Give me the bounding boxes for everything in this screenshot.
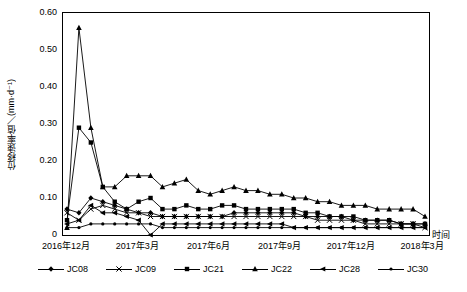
data-point-marker <box>232 226 235 229</box>
data-point-marker <box>171 221 176 226</box>
data-point-marker <box>255 221 260 226</box>
data-point-marker <box>303 211 307 215</box>
data-point-marker <box>280 226 283 229</box>
data-point-marker <box>173 226 176 229</box>
data-point-marker <box>339 214 343 218</box>
data-point-marker <box>292 207 296 211</box>
y-tick-label: 0 <box>25 229 57 239</box>
data-point-marker <box>219 221 224 226</box>
legend-label: JC21 <box>203 264 224 274</box>
data-point-marker <box>161 226 164 229</box>
data-point-marker <box>423 226 426 229</box>
data-point-marker <box>184 177 190 182</box>
data-point-marker <box>148 196 152 200</box>
data-point-marker <box>195 221 200 226</box>
data-point-marker <box>185 267 189 271</box>
series-layer <box>63 13 429 235</box>
data-point-marker <box>116 266 121 271</box>
data-point-marker <box>88 125 94 130</box>
x-tick-label: 2017年9月 <box>250 239 310 252</box>
legend-marker-square-icon <box>174 264 200 274</box>
data-point-marker <box>256 226 259 229</box>
y-tick-label: 0.10 <box>25 192 57 202</box>
data-point-marker <box>244 207 248 211</box>
legend-marker-diamond-icon <box>38 264 64 274</box>
data-point-marker <box>221 226 224 229</box>
data-point-marker <box>184 203 188 207</box>
data-point-marker <box>136 218 141 223</box>
data-point-marker <box>351 214 355 218</box>
data-point-marker <box>422 214 428 219</box>
data-point-marker <box>340 226 343 229</box>
data-point-marker <box>113 200 117 204</box>
data-point-marker <box>48 266 53 272</box>
legend-label: JC22 <box>271 264 292 274</box>
data-point-marker <box>149 222 152 225</box>
legend-item-jc22[interactable]: JC22 <box>242 264 292 274</box>
chart-legend: JC08JC09JC21JC22JC28JC30 <box>38 258 438 280</box>
data-point-marker <box>320 266 325 271</box>
data-point-marker <box>209 226 212 229</box>
plot-area <box>62 12 430 236</box>
y-tick-label: 0.50 <box>25 44 57 54</box>
legend-marker-dot-icon <box>378 264 404 274</box>
legend-item-jc28[interactable]: JC28 <box>310 264 360 274</box>
data-point-marker <box>197 226 200 229</box>
data-point-marker <box>172 207 176 211</box>
data-point-marker <box>376 226 379 229</box>
legend-label: JC09 <box>135 264 156 274</box>
data-point-marker <box>148 232 153 237</box>
legend-label: JC28 <box>339 264 360 274</box>
y-tick-label: 0.60 <box>25 7 57 17</box>
data-point-marker <box>268 226 271 229</box>
data-point-marker <box>124 207 128 211</box>
data-point-marker <box>352 226 355 229</box>
legend-item-jc21[interactable]: JC21 <box>174 264 224 274</box>
y-tick-label: 0.40 <box>25 81 57 91</box>
data-point-marker <box>304 226 307 229</box>
legend-marker-x-icon <box>106 264 132 274</box>
data-point-marker <box>89 140 93 144</box>
legend-item-jc30[interactable]: JC30 <box>378 264 428 274</box>
data-point-marker <box>411 226 414 229</box>
data-point-marker <box>389 267 392 270</box>
data-point-marker <box>256 207 260 211</box>
chart-container: 位移速率值／(mm·d⁻¹) 0.600.500.400.300.200.100… <box>0 0 467 292</box>
y-tick-label: 0.20 <box>25 155 57 165</box>
data-point-marker <box>77 226 80 229</box>
x-tick-label: 2017年12月 <box>321 239 381 252</box>
data-point-marker <box>185 226 188 229</box>
data-point-marker <box>77 126 81 130</box>
data-point-marker <box>137 222 140 225</box>
data-point-marker <box>279 221 284 226</box>
data-point-marker <box>125 222 128 225</box>
data-point-marker <box>267 221 272 226</box>
data-point-marker <box>244 226 247 229</box>
data-point-marker <box>388 226 391 229</box>
legend-label: JC08 <box>67 264 88 274</box>
data-point-marker <box>113 222 116 225</box>
legend-marker-left-triangle-icon <box>310 264 336 274</box>
data-point-marker <box>232 203 236 207</box>
legend-label: JC30 <box>407 264 428 274</box>
data-point-marker <box>160 207 164 211</box>
data-point-marker <box>231 221 236 226</box>
data-point-marker <box>196 207 200 211</box>
data-point-marker <box>363 218 367 222</box>
legend-item-jc08[interactable]: JC08 <box>38 264 88 274</box>
data-point-marker <box>400 226 403 229</box>
data-point-marker <box>136 200 140 204</box>
data-point-marker <box>364 226 367 229</box>
data-point-marker <box>268 207 272 211</box>
data-point-marker <box>183 221 188 226</box>
series-line-JC22 <box>67 28 425 228</box>
data-point-marker <box>315 211 319 215</box>
data-point-marker <box>375 218 379 222</box>
data-point-marker <box>208 207 212 211</box>
x-tick-label: 2017年3月 <box>107 239 167 252</box>
legend-item-jc09[interactable]: JC09 <box>106 264 156 274</box>
data-point-marker <box>101 222 104 225</box>
x-axis-label: 时间 <box>432 228 450 241</box>
data-point-marker <box>387 218 391 222</box>
x-tick-label: 2017年6月 <box>178 239 238 252</box>
